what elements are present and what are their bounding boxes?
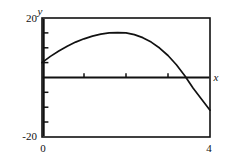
x-axis-label: x bbox=[213, 71, 219, 83]
y-tick-label-top: 20 bbox=[26, 12, 38, 24]
y-axis-label: y bbox=[37, 5, 43, 17]
plot-figure: y x 20 -20 0 4 bbox=[0, 0, 226, 161]
x-tick-label-right: 4 bbox=[206, 142, 212, 154]
y-tick-label-bottom: -20 bbox=[22, 130, 37, 142]
figure-screenshot: y x 20 -20 0 4 bbox=[0, 0, 226, 161]
x-tick-label-left: 0 bbox=[40, 142, 46, 154]
